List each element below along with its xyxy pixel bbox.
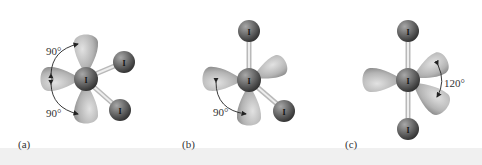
terminal-atom-label: I (406, 126, 409, 135)
panel-b: I I I 90° (b) (182, 20, 295, 151)
panel-label-b: (b) (182, 138, 195, 151)
panel-label-a: (a) (18, 138, 31, 151)
angle-label: 90° (213, 106, 228, 118)
panel-label-c: (c) (345, 138, 358, 151)
terminal-atom-label: I (282, 108, 285, 117)
terminal-atom-label: I (118, 107, 121, 116)
terminal-atom-label: I (247, 28, 250, 37)
terminal-atom-label: I (122, 59, 125, 68)
central-atom-label: I (247, 77, 250, 86)
angle-label-upper: 90° (46, 45, 61, 57)
terminal-atom-label: I (406, 28, 409, 37)
central-atom-label: I (84, 76, 87, 85)
central-atom-label: I (406, 77, 409, 86)
iodine-trihalide-orbital-diagram: I I I 90° 90° (a) I I I 90° (b) (0, 0, 482, 165)
angle-label-lower: 90° (46, 107, 61, 119)
panel-a: I I I 90° 90° (a) (18, 35, 135, 152)
panel-c: I I I 120° (c) (345, 20, 465, 151)
angle-label: 120° (444, 77, 465, 89)
